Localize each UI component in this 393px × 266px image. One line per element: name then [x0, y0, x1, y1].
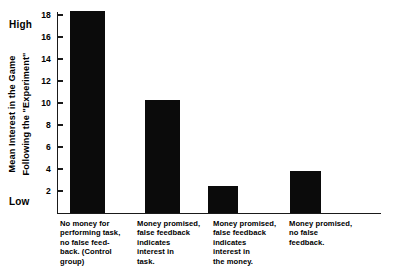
- y-axis-tick: [58, 168, 63, 169]
- y-axis-tick-label: 2: [17, 187, 57, 196]
- y-axis-anchor-high: High: [9, 19, 32, 30]
- bar: [145, 100, 180, 213]
- x-axis-category-label: Money promised, false feedback indicates…: [137, 219, 211, 266]
- y-axis-tick-label: 8: [17, 121, 57, 130]
- y-axis-title: Mean Interest in the Game Following the …: [2, 14, 36, 214]
- y-axis-tick: [58, 14, 63, 15]
- y-axis-tick-label: 4: [17, 165, 57, 174]
- y-axis-tick-label: 6: [17, 143, 57, 152]
- y-axis-tick: [58, 36, 63, 37]
- y-axis-tick: [58, 124, 63, 125]
- x-axis-category-label: Money promised, false feedback indicates…: [213, 219, 287, 266]
- bar-chart: Mean Interest in the Game Following the …: [0, 0, 393, 266]
- y-axis-title-line-1: Mean Interest in the Game: [6, 52, 20, 175]
- x-axis-category-label: No money for performing task, no false f…: [60, 219, 132, 266]
- x-axis-category-label: Money promised, no false feedback.: [289, 219, 367, 247]
- y-axis-tick: [58, 102, 63, 103]
- y-axis-anchor-low: Low: [9, 196, 30, 207]
- y-axis-tick-label: 14: [17, 55, 57, 64]
- y-axis-tick: [58, 80, 63, 81]
- y-axis-line: [57, 12, 58, 214]
- y-axis-tick-label: 12: [17, 77, 57, 86]
- y-axis-title-line-2: Following the "Experiment": [19, 52, 33, 175]
- y-axis-tick: [58, 58, 63, 59]
- y-axis-tick-label: 16: [17, 33, 57, 42]
- y-axis-tick-label: 18: [17, 11, 57, 20]
- bar: [208, 186, 238, 214]
- x-axis-line: [57, 213, 381, 214]
- y-axis-tick: [58, 190, 63, 191]
- y-axis-tick: [58, 146, 63, 147]
- y-axis-tick-label: 10: [17, 99, 57, 108]
- bar: [70, 11, 105, 213]
- bar: [290, 171, 321, 213]
